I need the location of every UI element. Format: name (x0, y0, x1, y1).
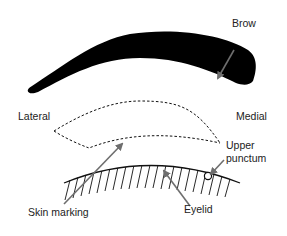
eyelid-label: Eyelid (184, 203, 213, 215)
medial-label: Medial (236, 110, 267, 122)
skin-marking-outline (54, 101, 220, 148)
eyebrow-diagram: Brow Lateral Medial Upper punctum Skin m… (0, 0, 287, 236)
eyelid-arrow (164, 171, 190, 206)
brow-label: Brow (232, 17, 256, 29)
skin-marking-label: Skin marking (28, 206, 89, 218)
upper-punctum-label-1: Upper (226, 139, 255, 151)
eyelid-hatching (65, 165, 230, 200)
skin-marking-arrow (64, 144, 122, 204)
brow-shape (28, 31, 256, 93)
upper-punctum-arrow (211, 160, 224, 174)
lateral-label: Lateral (18, 110, 50, 122)
upper-punctum-label-2: punctum (226, 152, 266, 164)
